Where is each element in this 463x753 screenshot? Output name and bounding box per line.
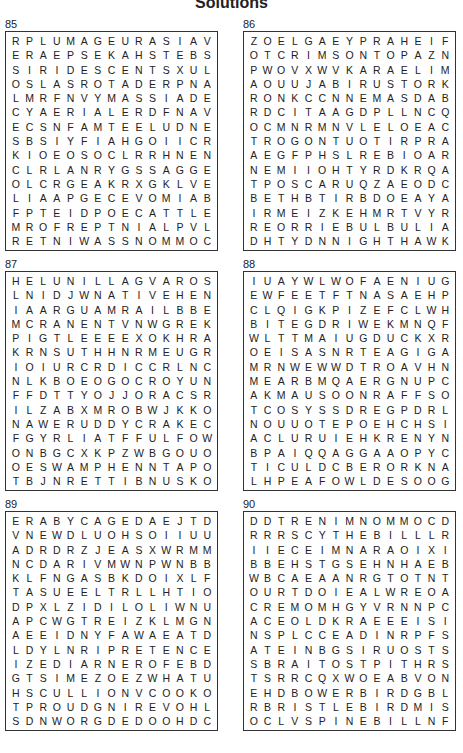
grid-letter: A [36,105,50,119]
grid-letter: O [36,220,50,234]
grid-letter: O [23,360,37,374]
grid-row: LNIDJWNATIVEHEN [9,288,214,302]
grid-letter: I [411,614,425,628]
grid-letter: G [343,446,357,460]
grid-letter: E [411,585,425,599]
grid-letter: O [261,34,275,48]
grid-letter: S [9,63,23,77]
grid-letter: L [187,206,201,220]
grid-letter: D [356,105,370,119]
grid-letter: L [384,120,398,134]
grid-letter: B [187,303,201,317]
grid-letter: W [132,446,146,460]
grid-letter: V [200,34,214,48]
grid-letter: C [302,528,316,542]
grid-letter: W [315,63,329,77]
grid-letter: T [9,700,23,714]
grid-letter: D [105,714,119,728]
grid-letter: C [315,91,329,105]
grid-letter: S [288,345,302,359]
grid-letter: J [173,514,187,528]
grid-row: DPXLZIDILOLIWNU [9,600,214,614]
grid-letter: D [36,557,50,571]
grid-letter: O [261,91,275,105]
grid-letter: K [36,374,50,388]
grid-letter: G [187,163,201,177]
grid-row: SDNWORGDEDOOHDC [9,714,214,728]
grid-letter: I [77,557,91,571]
grid-letter: T [173,206,187,220]
grid-letter: O [200,474,214,488]
grid-letter: I [159,528,173,542]
grid-letter: S [384,77,398,91]
grid-letter: A [118,48,132,62]
grid-letter: G [302,34,316,48]
grid-letter: T [438,571,452,585]
grid-letter: A [329,446,343,460]
grid-letter: I [329,514,343,528]
grid-letter: L [118,600,132,614]
grid-letter: E [118,514,132,528]
grid-letter: E [370,403,384,417]
grid-letter: P [173,77,187,91]
grid-letter: N [343,91,357,105]
grid-letter: B [187,657,201,671]
grid-letter: F [77,134,91,148]
puzzle-87: 87 HELUNILLAGVAROSLNIDJWNATIVEHENIAARGUA… [5,258,218,491]
grid-letter: P [411,628,425,642]
grid-letter: I [247,206,261,220]
grid-letter: L [146,120,160,134]
grid-letter: T [118,288,132,302]
grid-letter: R [200,134,214,148]
grid-letter: M [274,388,288,402]
grid-letter: E [146,77,160,91]
grid-letter: A [247,388,261,402]
grid-row: LDYLNRIPRETENCE [9,643,214,657]
grid-letter: M [384,514,398,528]
grid-letter: W [329,360,343,374]
grid-letter: G [343,105,357,119]
grid-letter: O [146,528,160,542]
grid-letter: H [91,345,105,359]
grid-letter: O [132,388,146,402]
grid-letter: W [356,317,370,331]
grid-letter: A [315,571,329,585]
grid-letter: M [173,614,187,628]
grid-letter: A [247,643,261,657]
grid-letter: L [50,163,64,177]
grid-letter: C [146,360,160,374]
grid-letter: K [261,388,275,402]
grid-letter: N [173,105,187,119]
grid-row: BETHBTIRBDOEAYA [247,191,452,205]
grid-letter: L [187,571,201,585]
grid-letter: U [64,700,78,714]
grid-letter: S [438,628,452,642]
grid-letter: F [329,288,343,302]
grid-letter: U [356,220,370,234]
grid-letter: R [159,360,173,374]
grid-letter: I [411,274,425,288]
grid-letter: U [425,274,439,288]
grid-letter: I [356,643,370,657]
grid-letter: E [146,700,160,714]
grid-letter: A [146,514,160,528]
grid-letter: N [9,417,23,431]
grid-letter: Y [356,600,370,614]
grid-letter: T [173,585,187,599]
grid-row: AEEIDNYFAWAEATD [9,628,214,642]
grid-letter: P [91,460,105,474]
grid-row: NOUUOTEPOEHCHSI [247,417,452,431]
grid-letter: T [64,388,78,402]
grid-letter: H [132,48,146,62]
grid-letter: S [438,643,452,657]
grid-letter: O [91,148,105,162]
grid-letter: C [397,331,411,345]
grid-row: MEARBMQAERGNUPC [247,374,452,388]
grid-letter: U [343,134,357,148]
grid-letter: R [397,585,411,599]
grid-letter: I [9,403,23,417]
grid-letter: E [261,374,275,388]
grid-letter: K [288,91,302,105]
grid-letter: E [132,643,146,657]
grid-row: WLTTMAIUGDUCKXR [247,331,452,345]
